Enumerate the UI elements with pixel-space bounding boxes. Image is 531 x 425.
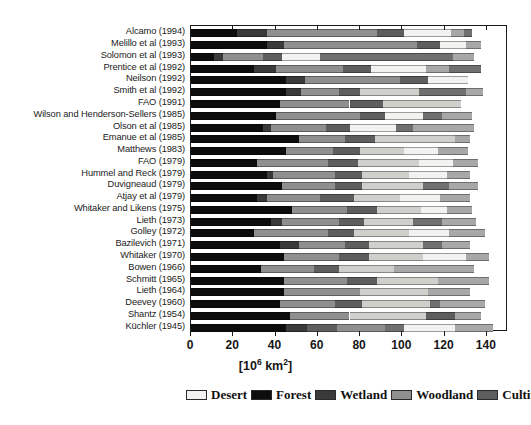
bar-segment-tundra	[419, 88, 465, 96]
y-axis-label: Neilson (1992)	[126, 73, 185, 84]
bar-segment-grassland	[360, 147, 404, 155]
bar-segment-forest	[191, 206, 292, 214]
x-tick-top	[317, 26, 318, 30]
x-tick	[317, 331, 318, 336]
stacked-bar-chart: Alcamo (1994)Melillo et al (1993)Solomon…	[0, 0, 531, 425]
bar-row	[191, 182, 478, 190]
legend-swatch-forest-icon	[251, 390, 272, 400]
y-axis-label: Melillo et al (1993)	[111, 38, 185, 49]
bar-segment-woodland	[276, 65, 344, 73]
bar-segment-tundra	[430, 300, 441, 308]
bar-row	[191, 241, 470, 249]
bar-segment-forest	[191, 241, 280, 249]
y-axis-label: Wilson and Henderson-Sellers (1985)	[33, 109, 185, 120]
x-axis-title: [106 km2]	[0, 357, 531, 373]
bar-segment-forest	[191, 182, 282, 190]
bar-segment-woodland	[223, 53, 263, 61]
x-axis-ticks-top	[190, 26, 507, 31]
bar-segment-other	[438, 147, 468, 155]
bar-segment-desert	[409, 229, 449, 237]
y-axis-label: FAO (1979)	[138, 156, 185, 167]
bar-row	[191, 300, 485, 308]
bar-segment-cultivated	[417, 41, 440, 49]
bar-segment-cultivated	[426, 312, 456, 320]
x-tick	[401, 331, 402, 336]
legend-item-forest[interactable]: Forest	[251, 388, 311, 401]
bar-segment-desert	[371, 65, 426, 73]
y-axis-label: Golley (1972)	[130, 226, 185, 237]
bar-row	[191, 171, 470, 179]
bar-segment-forest	[191, 135, 299, 143]
bar-segment-woodland	[276, 112, 361, 120]
x-tick-label: 60	[310, 338, 323, 352]
bar-segment-wetland	[271, 218, 282, 226]
bar-segment-other	[449, 182, 479, 190]
bar-segment-tundra	[413, 218, 443, 226]
bar-row	[191, 312, 481, 320]
bar-segment-desert	[419, 159, 453, 167]
bar-segment-grassland	[354, 229, 409, 237]
bar-segment-woodland	[273, 171, 334, 179]
legend-label: Desert	[211, 388, 247, 401]
y-axis-label: Lieth (1973)	[137, 215, 185, 226]
legend-item-cultivated[interactable]: Cultivated	[477, 388, 531, 401]
bar-segment-forest	[191, 100, 280, 108]
bar-segment-desert	[400, 194, 440, 202]
y-axis-label: Olson et al (1985)	[113, 121, 185, 132]
bar-segment-cultivated	[333, 147, 360, 155]
plot-area	[190, 25, 507, 331]
x-tick-top	[401, 26, 402, 30]
x-tick-label: 140	[476, 338, 496, 352]
bar-segment-other	[442, 241, 469, 249]
bar-segment-forest	[191, 300, 280, 308]
bar-segment-cultivated	[335, 182, 362, 190]
bar-segment-cultivated	[314, 265, 339, 273]
y-axis-label: Deevey (1960)	[125, 297, 185, 308]
legend-item-desert[interactable]: Desert	[186, 388, 247, 401]
bar-segment-forest	[191, 265, 261, 273]
bar-segment-cultivated	[339, 253, 369, 261]
bar-row	[191, 135, 470, 143]
bar-row	[191, 253, 489, 261]
bar-segment-other	[466, 41, 481, 49]
x-tick-label: 20	[226, 338, 239, 352]
bar-segment-forest	[191, 65, 254, 73]
y-axis-label: Alcamo (1994)	[126, 26, 185, 37]
y-axis-label: Bazilevich (1971)	[115, 238, 185, 249]
x-tick	[444, 331, 445, 336]
y-axis-label: Shantz (1954)	[128, 309, 185, 320]
bar-row	[191, 124, 474, 132]
bar-segment-forest	[191, 171, 267, 179]
bar-row	[191, 159, 478, 167]
y-axis-label: FAO (1991)	[138, 97, 185, 108]
bar-segment-forest	[191, 277, 284, 285]
bar-segment-tundra	[396, 124, 413, 132]
y-axis-label: Solomon et al (1993)	[101, 50, 185, 61]
x-tick-top	[359, 26, 360, 30]
x-tick-top	[275, 26, 276, 30]
x-tick	[232, 331, 233, 336]
bar-segment-grassland	[375, 135, 455, 143]
bar-segment-desert	[421, 206, 446, 214]
bar-segment-wetland	[263, 124, 271, 132]
bar-segment-other	[455, 312, 480, 320]
bar-row	[191, 100, 462, 108]
bar-segment-cultivated	[326, 124, 349, 132]
bar-segment-grassland	[369, 241, 424, 249]
bar-segment-grassland	[360, 288, 428, 296]
bar-row	[191, 88, 483, 96]
legend-swatch-cultivated-icon	[477, 390, 498, 400]
bar-segment-grassland	[339, 265, 394, 273]
x-tick-top	[190, 26, 191, 30]
bar-segment-grassland	[360, 88, 419, 96]
bar-row	[191, 65, 481, 73]
bar-segment-other	[453, 53, 474, 61]
bar-segment-woodland	[254, 229, 328, 237]
legend-item-woodland[interactable]: Woodland	[391, 388, 473, 401]
bar-segment-cultivated	[360, 112, 385, 120]
bar-segment-wetland	[214, 53, 222, 61]
legend-label: Cultivated	[502, 388, 531, 401]
bar-segment-desert	[350, 124, 396, 132]
legend-item-wetland[interactable]: Wetland	[315, 388, 387, 401]
y-axis-label: Duvigneaud (1979)	[108, 179, 185, 190]
